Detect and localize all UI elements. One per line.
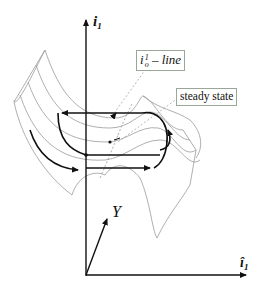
iline-base: i (140, 52, 144, 67)
iline-label: i1o – line (136, 50, 185, 71)
i1-subscript: 1 (97, 21, 102, 31)
diagram-canvas (0, 0, 266, 293)
axis-intersection-dot (84, 153, 88, 157)
outer-left-curve-arrow (30, 130, 78, 170)
left-descending-curve (58, 113, 86, 155)
hysteresis-arrows (30, 113, 170, 170)
i1hat-subscript: 1 (244, 262, 249, 272)
steady-state-point (108, 140, 111, 143)
steady-state-label: steady state (176, 88, 237, 106)
i1-axis-label: i1 (93, 14, 102, 29)
iline-suffix: – line (149, 52, 182, 67)
i1hat-axis-label: î1 (240, 256, 248, 270)
Y-axis (86, 219, 107, 275)
cusp-surface-diagram: i1 Y î1 i1o – line steady state (0, 0, 266, 293)
Y-axis-label: Y (112, 204, 121, 220)
cusp-surface (14, 50, 201, 238)
